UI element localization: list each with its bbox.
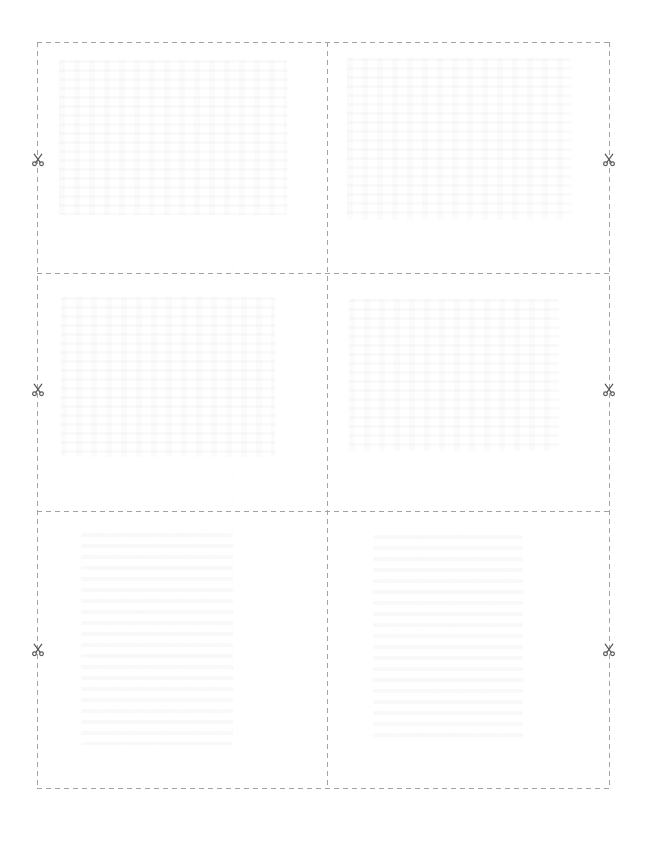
label-cell-6[interactable] (327, 511, 609, 788)
cell-ghost-content (81, 533, 233, 745)
label-cell-4[interactable] (327, 273, 609, 511)
cut-line-row-divider-1 (37, 273, 610, 274)
cut-line-column-divider-1 (327, 42, 328, 789)
cell-ghost-content (373, 535, 523, 743)
cut-line-row-divider-2 (37, 511, 610, 512)
cell-ghost-content (61, 297, 275, 457)
scissors-icon (31, 643, 45, 657)
scissors-icon (602, 153, 616, 167)
scissors-icon (31, 383, 45, 397)
label-cell-5[interactable] (37, 511, 327, 788)
cell-ghost-content (349, 299, 559, 451)
label-cell-2[interactable] (327, 42, 609, 273)
cell-ghost-content (347, 58, 571, 220)
cut-line-top (37, 42, 610, 43)
cut-line-bottom (37, 788, 610, 789)
scissors-icon (602, 383, 616, 397)
cell-ghost-content (59, 60, 287, 215)
scissors-icon (31, 153, 45, 167)
label-cell-3[interactable] (37, 273, 327, 511)
cut-guide-grid (37, 42, 610, 789)
scissors-icon (602, 643, 616, 657)
label-cell-1[interactable] (37, 42, 327, 273)
printable-cut-sheet-page (0, 0, 647, 841)
